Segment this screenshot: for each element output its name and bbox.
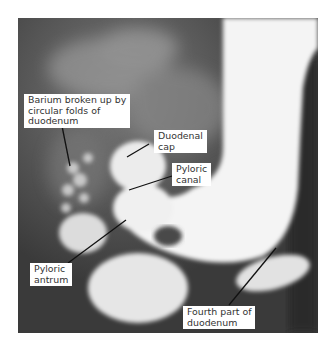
label-pyloric-canal: Pyloric canal: [172, 163, 211, 186]
label-fourth-part-duodenum: Fourth part of duodenum: [183, 306, 255, 329]
leader-lines: [0, 0, 335, 347]
label-duodenal-cap: Duodenal cap: [154, 130, 207, 153]
label-pyloric-antrum: Pyloric antrum: [30, 263, 72, 286]
label-barium-folds: Barium broken up by circular folds of du…: [24, 94, 130, 128]
